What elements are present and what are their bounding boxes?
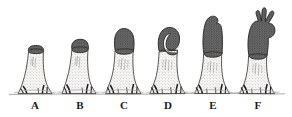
stage-label-F: F: [249, 98, 267, 112]
stage-label-A: A: [26, 98, 44, 112]
stage-B-cap: [72, 39, 89, 52]
figure-panel: A B C D E F: [0, 0, 292, 117]
stage-label-B: B: [71, 98, 89, 112]
stage-label-C: C: [115, 98, 133, 112]
stage-C-cap: [114, 29, 134, 55]
stage-label-row: A B C D E F: [0, 98, 292, 117]
stage-label-D: D: [159, 98, 177, 112]
stage-label-E: E: [204, 98, 222, 112]
